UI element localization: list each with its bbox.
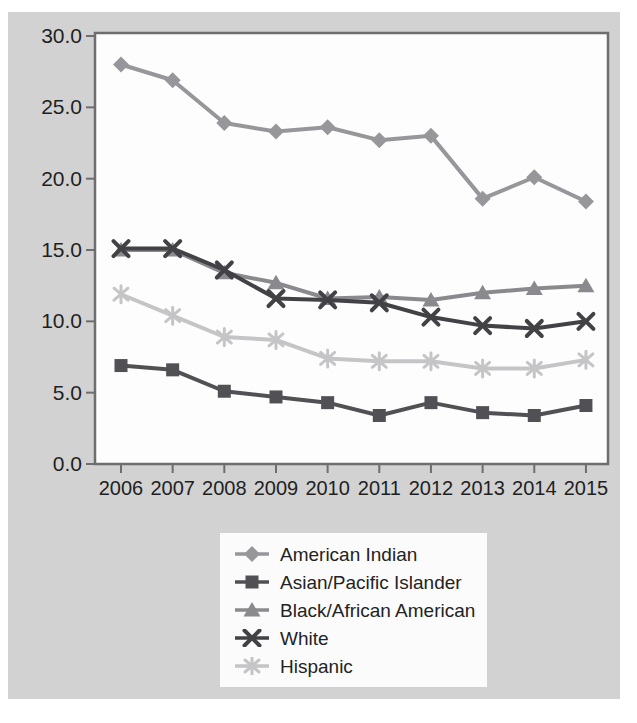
- y-tick-label: 25.0: [41, 95, 82, 118]
- x-tick-label: 2006: [99, 477, 144, 499]
- x-tick-label: 2015: [564, 477, 609, 499]
- x-marker-icon: [233, 629, 271, 647]
- x-tick-label: 2013: [460, 477, 505, 499]
- legend-item-label: American Indian: [280, 545, 417, 564]
- square-marker-icon: [579, 399, 592, 412]
- x-tick-label: 2011: [358, 477, 401, 499]
- triangle-marker-icon: [233, 601, 271, 619]
- legend-item-hispanic: Hispanic: [233, 655, 487, 678]
- x-tick-label: 2009: [254, 477, 299, 499]
- legend-item-asian-pacific-islander: Asian/Pacific Islander: [233, 571, 487, 594]
- square-marker-icon: [476, 406, 489, 419]
- y-tick-label: 10.0: [41, 309, 82, 332]
- x-tick-label: 2014: [512, 477, 557, 499]
- square-marker-icon: [246, 576, 259, 589]
- figure: 0.05.010.015.020.025.030.020062007200820…: [0, 0, 637, 723]
- diamond-marker-icon: [233, 545, 271, 563]
- x-tick-label: 2010: [305, 477, 350, 499]
- asterisk-marker-icon: [233, 657, 271, 675]
- x-tick-label: 2008: [202, 477, 247, 499]
- x-tick-label: 2007: [150, 477, 195, 499]
- diamond-marker-icon: [244, 546, 260, 562]
- y-tick-label: 0.0: [53, 452, 82, 475]
- square-marker-icon: [115, 359, 128, 372]
- square-marker-icon: [373, 409, 386, 422]
- legend-item-label: White: [280, 629, 329, 648]
- legend-item-label: Hispanic: [280, 657, 353, 676]
- legend-item-american-indian: American Indian: [233, 543, 487, 566]
- square-marker-icon: [269, 390, 282, 403]
- y-tick-label: 5.0: [53, 381, 82, 404]
- legend: American Indian Asian/Pacific Islander B…: [220, 533, 487, 687]
- y-tick-label: 15.0: [41, 238, 82, 261]
- square-marker-icon: [218, 385, 231, 398]
- square-marker-icon: [166, 363, 179, 376]
- square-marker-icon: [233, 573, 271, 591]
- x-tick-label: 2012: [409, 477, 454, 499]
- legend-item-black-african-american: Black/African American: [233, 599, 487, 622]
- y-tick-label: 20.0: [41, 167, 82, 190]
- square-marker-icon: [321, 396, 334, 409]
- square-marker-icon: [424, 396, 437, 409]
- legend-item-label: Black/African American: [280, 601, 475, 620]
- legend-item-white: White: [233, 627, 487, 650]
- square-marker-icon: [528, 409, 541, 422]
- y-tick-label: 30.0: [41, 24, 82, 47]
- legend-item-label: Asian/Pacific Islander: [280, 573, 462, 592]
